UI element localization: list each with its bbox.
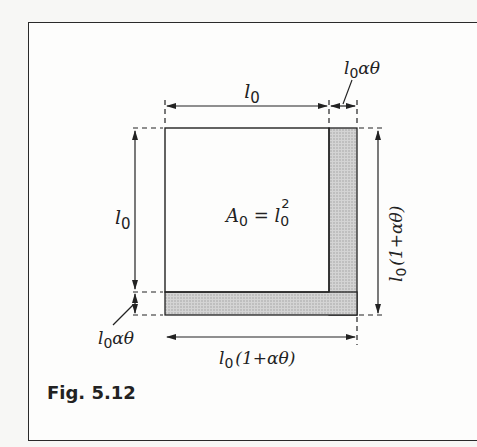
thermal-expansion-diagram: l0 l0αθ l0 A0 = l02 l0(1+αθ) l0αθ l0(1+α… (0, 0, 477, 447)
figure-caption: Fig. 5.12 (47, 382, 136, 403)
label-bottom-width: l0(1+αθ) (219, 348, 295, 371)
label-top-width: l0 (244, 80, 260, 107)
left-leader-line (113, 305, 133, 325)
label-left-expansion: l0αθ (98, 328, 134, 351)
label-top-expansion: l0αθ (344, 58, 380, 81)
label-right-height: l0(1+αθ) (386, 206, 409, 282)
top-leader-line (343, 80, 352, 104)
label-area: A0 = l02 (224, 196, 289, 229)
label-left-height: l0 (115, 206, 131, 233)
bottom-strip (165, 292, 357, 315)
right-strip (329, 128, 357, 315)
